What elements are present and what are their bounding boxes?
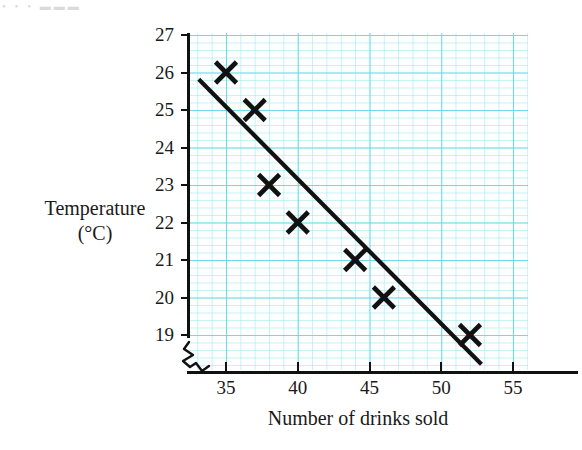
x-axis-title: Number of drinks sold bbox=[188, 406, 528, 430]
y-axis-tick bbox=[181, 34, 190, 36]
scatter-chart-figure: • • • ▬▬▬ Temperature (°C) Number of dri… bbox=[0, 0, 582, 450]
scan-artifact: • • • ▬▬▬ bbox=[2, 0, 122, 12]
y-axis-tick-label: 25 bbox=[146, 100, 174, 119]
y-axis-tick-label: 22 bbox=[146, 213, 174, 232]
x-axis-tick-label: 45 bbox=[350, 378, 390, 397]
y-axis-tick-label: 23 bbox=[146, 175, 174, 194]
x-axis-tick bbox=[369, 362, 371, 372]
y-axis-tick bbox=[181, 147, 190, 149]
y-axis-tick-label: 19 bbox=[146, 325, 174, 344]
y-axis-tick-label: 26 bbox=[146, 63, 174, 82]
x-axis-tick-label: 35 bbox=[206, 378, 246, 397]
x-axis-tick bbox=[440, 362, 442, 372]
y-axis-tick-label: 24 bbox=[146, 138, 174, 157]
y-axis-tick-label: 20 bbox=[146, 288, 174, 307]
y-axis-tick bbox=[181, 334, 190, 336]
plot-grid-area bbox=[188, 33, 528, 370]
y-axis-title-text: Temperature bbox=[45, 197, 146, 219]
y-axis-tick-label: 21 bbox=[146, 250, 174, 269]
x-axis-tick bbox=[225, 362, 227, 372]
y-axis-title-units: (°C) bbox=[78, 222, 113, 244]
x-axis-tick-label: 55 bbox=[493, 378, 533, 397]
x-axis-tick bbox=[297, 362, 299, 372]
x-axis-tick bbox=[512, 362, 514, 372]
x-axis-tick-label: 40 bbox=[278, 378, 318, 397]
x-axis-tick-label: 50 bbox=[421, 378, 461, 397]
y-axis-tick-label: 27 bbox=[146, 25, 174, 44]
y-axis-tick bbox=[181, 72, 190, 74]
y-axis-tick bbox=[181, 109, 190, 111]
y-axis-break-icon bbox=[176, 340, 218, 376]
y-axis-tick bbox=[181, 222, 190, 224]
y-axis-tick bbox=[181, 259, 190, 261]
x-axis-line bbox=[187, 371, 578, 374]
y-axis-tick bbox=[181, 184, 190, 186]
y-axis-tick bbox=[181, 297, 190, 299]
